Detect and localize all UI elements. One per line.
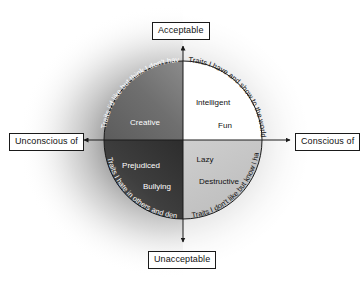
axis-label-unacceptable: Unacceptable [148,251,216,269]
axis-label-conscious-of: Conscious of [295,133,360,151]
diagram-canvas: Traits I have and show to the world Trai… [0,0,364,287]
trait-lazy: Lazy [197,155,214,164]
trait-bullying: Bullying [143,182,171,191]
axis-label-unconscious-of: Unconscious of [9,133,84,151]
axis-label-acceptable: Acceptable [152,22,210,40]
trait-fun: Fun [218,121,232,130]
trait-intelligent: Intelligent [196,98,231,107]
trait-prejudiced: Prejudiced [122,161,160,170]
trait-creative: Creative [130,118,160,127]
trait-destructive: Destructive [199,177,240,186]
